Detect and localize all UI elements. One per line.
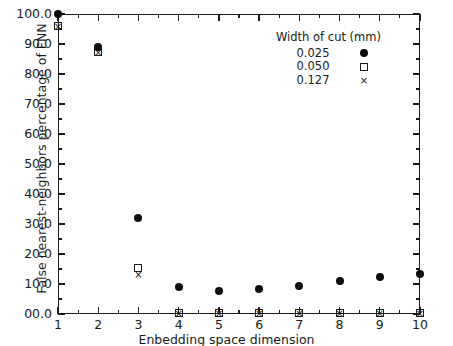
x-minor-tick-top bbox=[118, 14, 119, 18]
y-tick bbox=[58, 73, 65, 74]
y-tick bbox=[58, 193, 65, 194]
data-point-circle bbox=[94, 43, 102, 51]
y-tick-right bbox=[413, 253, 420, 254]
legend: Width of cut (mm) 0.0250.0500.127× bbox=[276, 31, 381, 87]
x-tick-top bbox=[379, 14, 380, 21]
data-point-square bbox=[134, 264, 142, 272]
x-minor-tick-top bbox=[158, 14, 159, 18]
x-tick-top bbox=[258, 14, 259, 21]
y-tick-right bbox=[413, 223, 420, 224]
x-tick bbox=[98, 307, 99, 314]
data-point-square bbox=[175, 309, 183, 317]
y-minor-tick bbox=[58, 178, 62, 179]
data-point-circle bbox=[215, 287, 223, 295]
x-minor-tick-top bbox=[78, 14, 79, 18]
y-tick bbox=[58, 283, 65, 284]
x-minor-tick-top bbox=[238, 14, 239, 18]
legend-entry-marker: × bbox=[350, 74, 378, 88]
x-tick-top bbox=[218, 14, 219, 21]
data-point-square bbox=[416, 309, 424, 317]
x-tick-label: 10 bbox=[405, 319, 435, 332]
y-tick bbox=[58, 43, 65, 44]
x-tick-label: 2 bbox=[83, 319, 113, 332]
data-point-circle bbox=[336, 277, 344, 285]
data-point-square bbox=[376, 309, 384, 317]
legend-entry-marker bbox=[350, 60, 378, 74]
y-minor-tick bbox=[58, 88, 62, 89]
data-point-square bbox=[336, 309, 344, 317]
x-minor-tick-top bbox=[359, 14, 360, 18]
y-minor-tick bbox=[58, 208, 62, 209]
y-minor-tick-right bbox=[416, 148, 420, 149]
x-tick-top bbox=[419, 14, 420, 21]
y-minor-tick bbox=[58, 238, 62, 239]
x-tick-label: 3 bbox=[123, 319, 153, 332]
y-minor-tick-right bbox=[416, 208, 420, 209]
y-minor-tick bbox=[58, 298, 62, 299]
y-minor-tick-right bbox=[416, 298, 420, 299]
data-point-circle bbox=[376, 273, 384, 281]
x-tick-top bbox=[138, 14, 139, 21]
data-point-circle bbox=[255, 285, 263, 293]
data-point-circle bbox=[54, 10, 62, 18]
x-minor-tick bbox=[359, 310, 360, 314]
data-point-square bbox=[54, 22, 62, 30]
legend-entry-label: 0.127 bbox=[276, 74, 350, 88]
x-minor-tick bbox=[198, 310, 199, 314]
y-tick-right bbox=[413, 193, 420, 194]
legend-entry-label: 0.050 bbox=[276, 60, 350, 74]
x-minor-tick bbox=[238, 310, 239, 314]
y-tick-right bbox=[413, 103, 420, 104]
filled-circle-icon bbox=[360, 49, 368, 57]
y-minor-tick-right bbox=[416, 118, 420, 119]
y-tick bbox=[58, 313, 65, 314]
x-minor-tick-top bbox=[279, 14, 280, 18]
legend-entry: 0.127× bbox=[276, 74, 381, 88]
y-minor-tick bbox=[58, 268, 62, 269]
data-point-circle bbox=[134, 214, 142, 222]
cross-icon: × bbox=[360, 76, 369, 85]
x-minor-tick bbox=[158, 310, 159, 314]
y-tick bbox=[58, 223, 65, 224]
x-tick-top bbox=[178, 14, 179, 21]
y-minor-tick-right bbox=[416, 178, 420, 179]
x-minor-tick-top bbox=[399, 14, 400, 18]
x-minor-tick-top bbox=[198, 14, 199, 18]
legend-entries: 0.0250.0500.127× bbox=[276, 47, 381, 88]
x-axis-title: Enbedding space dimension bbox=[0, 333, 453, 346]
x-tick-top bbox=[339, 14, 340, 21]
y-minor-tick-right bbox=[416, 28, 420, 29]
y-tick-right bbox=[413, 283, 420, 284]
x-tick-label: 7 bbox=[284, 319, 314, 332]
data-point-circle bbox=[175, 283, 183, 291]
x-tick-label: 8 bbox=[325, 319, 355, 332]
x-minor-tick bbox=[118, 310, 119, 314]
y-minor-tick-right bbox=[416, 238, 420, 239]
y-axis-title: False nearest-neighbors percentage of FN… bbox=[35, 9, 48, 309]
x-tick-label: 5 bbox=[204, 319, 234, 332]
x-minor-tick-top bbox=[319, 14, 320, 18]
y-minor-tick-right bbox=[416, 88, 420, 89]
x-minor-tick bbox=[78, 310, 79, 314]
y-tick-right bbox=[413, 43, 420, 44]
y-tick bbox=[58, 163, 65, 164]
y-tick bbox=[58, 103, 65, 104]
legend-title: Width of cut (mm) bbox=[276, 31, 381, 45]
x-tick-label: 4 bbox=[164, 319, 194, 332]
y-minor-tick bbox=[58, 58, 62, 59]
y-tick-right bbox=[413, 133, 420, 134]
x-tick bbox=[57, 307, 58, 314]
x-tick-top bbox=[299, 14, 300, 21]
data-point-square bbox=[255, 309, 263, 317]
legend-entry: 0.050 bbox=[276, 60, 381, 74]
legend-entry-label: 0.025 bbox=[276, 47, 350, 61]
y-tick bbox=[58, 133, 65, 134]
data-point-circle bbox=[295, 282, 303, 290]
x-tick-label: 1 bbox=[43, 319, 73, 332]
x-tick-label: 6 bbox=[244, 319, 274, 332]
x-tick-top bbox=[98, 14, 99, 21]
x-minor-tick bbox=[279, 310, 280, 314]
data-point-circle bbox=[416, 270, 424, 278]
y-minor-tick bbox=[58, 148, 62, 149]
fnn-scatter-chart: 00.010.020.030.040.050.060.070.080.090.0… bbox=[0, 0, 453, 346]
